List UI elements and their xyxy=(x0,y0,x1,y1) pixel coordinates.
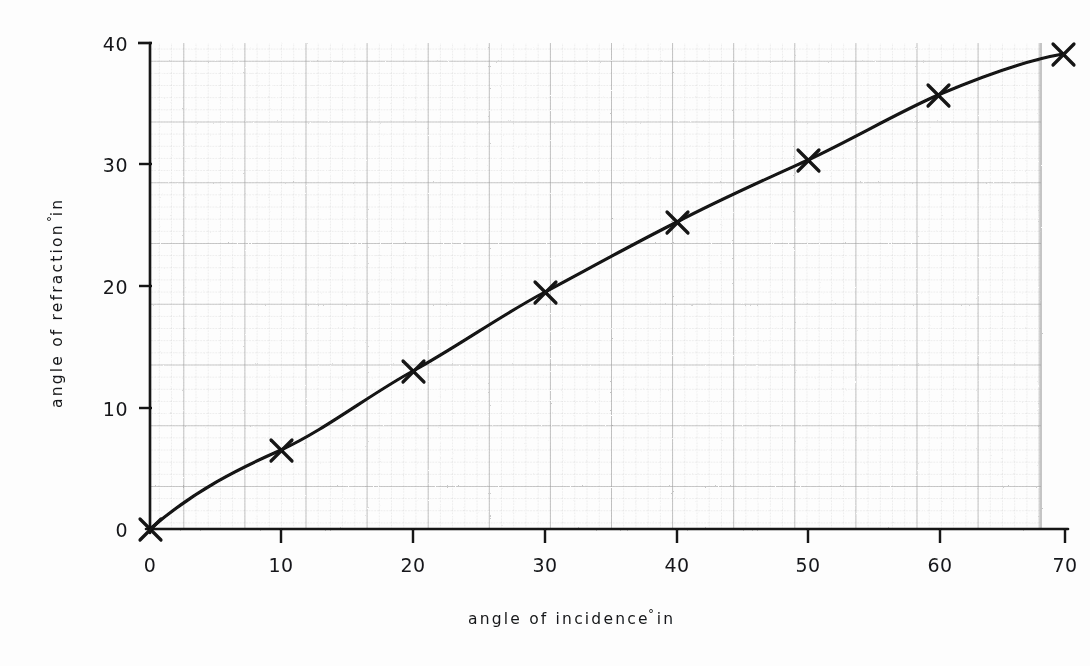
x-tick-label-50: 50 xyxy=(795,554,820,576)
x-tick-label-60: 60 xyxy=(927,554,952,576)
y-tick-label-0: 0 xyxy=(115,519,128,541)
x-tick-label-10: 10 xyxy=(268,554,293,576)
refraction-graph: 40 30 20 10 0 0 10 20 30 40 50 60 70 ang… xyxy=(0,0,1090,666)
x-tick-label-0: 0 xyxy=(144,554,157,576)
y-axis-title-group: angle of refraction in ° xyxy=(45,198,66,408)
major-gridlines xyxy=(150,43,1041,529)
chart-canvas: 40 30 20 10 0 0 10 20 30 40 50 60 70 ang… xyxy=(0,0,1090,666)
x-axis-title-group: angle of incidence in ° xyxy=(468,607,675,628)
x-tick-label-20: 20 xyxy=(400,554,425,576)
y-tick-label-20: 20 xyxy=(103,276,128,298)
y-tick-label-10: 10 xyxy=(103,398,128,420)
x-tick-label-70: 70 xyxy=(1052,554,1077,576)
y-axis-title: angle of refraction in xyxy=(48,198,66,408)
y-axis-degree-icon: ° xyxy=(45,214,59,222)
graph-paper-grid xyxy=(150,43,1041,529)
x-tick-label-30: 30 xyxy=(532,554,557,576)
x-axis-degree-icon: ° xyxy=(648,607,656,621)
y-tick-label-30: 30 xyxy=(103,154,128,176)
y-tick-label-40: 40 xyxy=(103,33,128,55)
x-axis-title: angle of incidence in xyxy=(468,610,675,628)
x-tick-label-40: 40 xyxy=(664,554,689,576)
